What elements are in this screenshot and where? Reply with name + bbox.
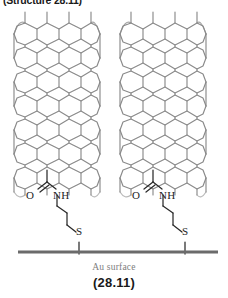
amide-nitrogen-label-right: NH bbox=[159, 189, 176, 201]
amide-nitrogen-label-left: NH bbox=[53, 189, 70, 201]
nanotube-sam-figure: (Structure 28.11) bbox=[0, 0, 228, 298]
structure-left bbox=[14, 12, 100, 254]
au-surface-label: Au surface bbox=[0, 262, 228, 272]
sulfur-label-left: S bbox=[76, 225, 82, 237]
carbon-nanotube-left bbox=[14, 12, 100, 197]
carbonyl-oxygen-label-right: O bbox=[132, 189, 140, 201]
structure-diagram bbox=[0, 0, 228, 298]
carbonyl-oxygen-label-left: O bbox=[26, 189, 34, 201]
structure-right bbox=[120, 12, 206, 254]
carbon-nanotube-right bbox=[120, 12, 206, 197]
sulfur-label-right: S bbox=[182, 225, 188, 237]
figure-number-label: (28.11) bbox=[0, 275, 228, 290]
